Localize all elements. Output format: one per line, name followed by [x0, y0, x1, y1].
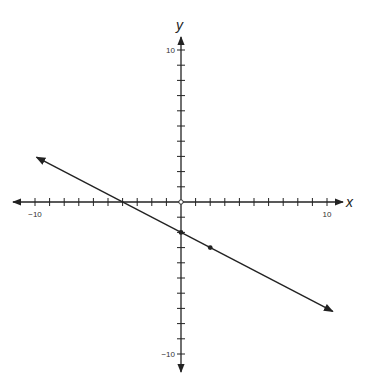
data-point — [179, 230, 184, 235]
graphed-line — [36, 157, 332, 311]
y-tick-label: −10 — [161, 350, 175, 359]
x-tick-label: 10 — [323, 210, 332, 219]
x-tick-label: −10 — [28, 210, 42, 219]
data-point — [208, 245, 213, 250]
y-axis-label: y — [175, 17, 184, 33]
coordinate-plane: −101010−10 x y — [0, 0, 371, 392]
origin-marker — [179, 200, 183, 204]
x-axis-label: x — [345, 194, 354, 210]
y-tick-label: 10 — [166, 46, 175, 55]
